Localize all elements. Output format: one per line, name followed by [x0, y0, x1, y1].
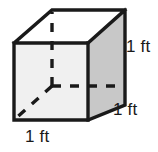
depth-label: 1 ft — [113, 101, 137, 118]
cube-drawing — [0, 0, 158, 152]
width-label: 1 ft — [25, 128, 49, 145]
cube-diagram: 1 ft 1 ft 1 ft — [0, 0, 158, 152]
height-label: 1 ft — [126, 38, 150, 55]
